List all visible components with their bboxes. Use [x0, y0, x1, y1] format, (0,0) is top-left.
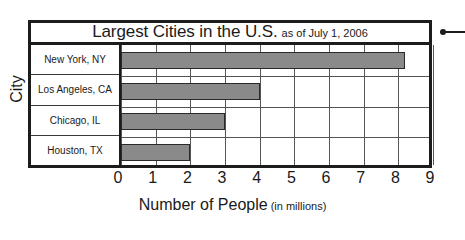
x-axis-tick: 6 [322, 170, 331, 186]
gridline-horizontal [121, 137, 429, 138]
chart-title: Largest Cities in the U.S. [92, 23, 277, 40]
x-axis-label-unit: (in millions) [271, 200, 327, 212]
bar-los-angeles [121, 83, 260, 100]
category-label: Chicago, IL [31, 106, 119, 136]
x-axis-tick: 2 [183, 170, 192, 186]
bar-row [121, 113, 429, 130]
x-axis-tick: 0 [114, 170, 123, 186]
chart-subtitle: as of July 1, 2006 [282, 28, 368, 39]
gridline-horizontal [121, 76, 429, 77]
annotation-leader-line [445, 31, 465, 33]
chart-title-band: Largest Cities in the U.S. as of July 1,… [31, 23, 429, 45]
x-axis-tick: 3 [218, 170, 227, 186]
x-axis-label: Number of People(in millions) [0, 196, 465, 214]
x-axis-tick: 8 [391, 170, 400, 186]
bar-new-york [121, 52, 405, 69]
chart-frame: Largest Cities in the U.S. as of July 1,… [28, 20, 432, 168]
category-label: Los Angeles, CA [31, 75, 119, 105]
x-axis-tick: 1 [148, 170, 157, 186]
bar-row [121, 52, 429, 69]
x-axis-tick: 9 [426, 170, 435, 186]
bar-row [121, 83, 429, 100]
x-axis-tick-row: 0123456789 [0, 170, 465, 192]
bar-houston [121, 144, 190, 161]
x-axis-tick: 5 [287, 170, 296, 186]
x-axis-tick: 7 [356, 170, 365, 186]
gridline-horizontal [121, 107, 429, 108]
plot-body: New York, NYLos Angeles, CAChicago, ILHo… [31, 45, 429, 165]
bar-row [121, 144, 429, 161]
annotation-pointer [440, 29, 465, 36]
bar-chicago [121, 113, 225, 130]
x-axis-tick: 4 [252, 170, 261, 186]
category-label: Houston, TX [31, 136, 119, 165]
plot-area [121, 45, 429, 165]
gridline-vertical [433, 45, 434, 165]
y-axis-label: City [8, 59, 26, 119]
category-label-column: New York, NYLos Angeles, CAChicago, ILHo… [31, 45, 121, 165]
x-axis-label-main: Number of People [139, 196, 268, 213]
category-label: New York, NY [31, 45, 119, 75]
